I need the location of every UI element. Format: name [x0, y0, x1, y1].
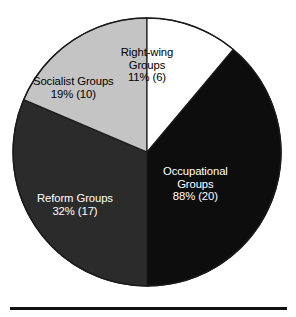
pie-chart-graphic [0, 0, 296, 317]
figure-bottom-rule [10, 307, 287, 310]
pie-chart-figure: Right-wing Groups 11% (6) Socialist Grou… [0, 0, 296, 317]
